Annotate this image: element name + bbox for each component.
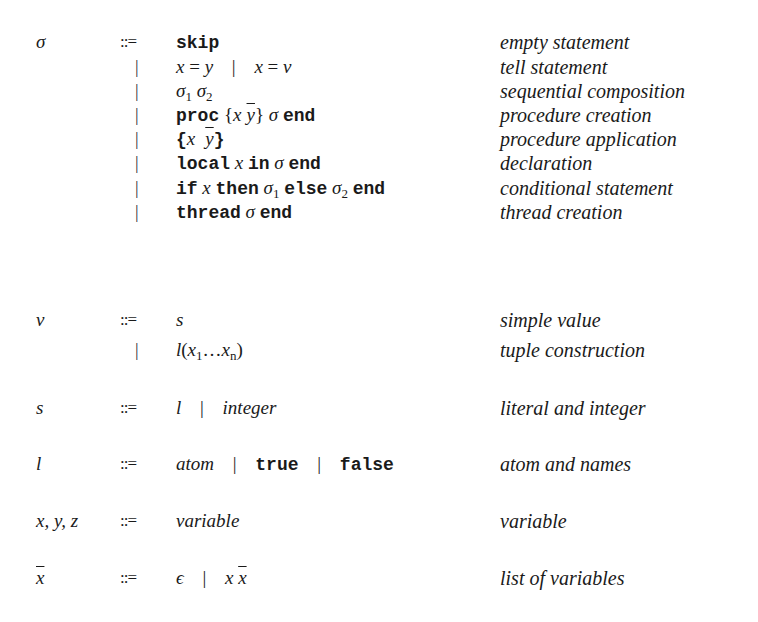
rbrace: } (214, 130, 225, 150)
production-literal-integer: s ::= l | integer literal and integer (0, 396, 758, 420)
var-ybar: y (247, 104, 255, 125)
alternative: atom | true | false (176, 452, 394, 477)
production-atom: l ::= atom | true | false atom and names (0, 452, 758, 476)
production-application: | {xy} procedure application (0, 127, 758, 151)
subscript: 1 (185, 89, 192, 104)
production-skip: σ ::= skip empty statement (0, 30, 758, 54)
grammar-table: σ ::= skip empty statement | x = y | x =… (0, 0, 758, 622)
alternative-bar: | (135, 200, 139, 224)
alternative: l | integer (176, 396, 276, 420)
production-simple-value: v ::= s simple value (0, 308, 758, 332)
nonterminal-l: l (36, 452, 41, 476)
sigma: σ (274, 152, 283, 173)
production-thread: | thread σ end thread creation (0, 200, 758, 224)
var-x: x (188, 339, 196, 360)
keyword-proc: proc (176, 106, 219, 126)
sigma: σ (264, 177, 273, 198)
production-sequential: | σ1 σ2 sequential composition (0, 79, 758, 103)
equals: = (189, 56, 200, 77)
var-x: x (235, 152, 243, 173)
alternative-bar: | (135, 176, 139, 200)
var-x: x (254, 56, 262, 77)
var-ybar: y (205, 128, 213, 149)
alternative-bar: | (135, 127, 139, 151)
rbrace: } (255, 104, 264, 125)
var-y: y (205, 56, 213, 77)
alternative-bar: | (135, 338, 139, 362)
nonterminal-sigma: σ (36, 30, 45, 54)
defines-symbol: ::= (120, 396, 136, 420)
var-x: x (176, 56, 184, 77)
equals: = (268, 56, 279, 77)
sigma: σ (269, 104, 278, 125)
defines-symbol: ::= (120, 30, 136, 54)
var-x: x (233, 104, 241, 125)
alternative-bar: | (135, 151, 139, 175)
inline-bar: | (202, 566, 206, 590)
production-if: | if x then σ1 else σ2 end conditional s… (0, 176, 758, 200)
nonterminal-s: s (36, 396, 43, 420)
alternative: variable (176, 509, 239, 533)
defines-symbol: ::= (120, 452, 136, 476)
nonterminal-xyz: x, y, z (36, 509, 78, 533)
var-x: x (222, 339, 230, 360)
keyword-end: end (283, 106, 315, 126)
description: literal and integer (500, 396, 646, 420)
production-variable: x, y, z ::= variable variable (0, 509, 758, 533)
description: empty statement (500, 30, 629, 54)
var-x: x (187, 128, 195, 149)
keyword-local: local (176, 154, 230, 174)
var-l: l (176, 397, 181, 418)
description: procedure creation (500, 103, 652, 127)
lbrace: { (176, 130, 187, 150)
alternative: l(x1…xn) (176, 338, 243, 368)
description: thread creation (500, 200, 622, 224)
defines-symbol: ::= (120, 509, 136, 533)
sigma: σ (176, 80, 185, 101)
var-x: x (225, 567, 233, 588)
production-proc: | proc {xy} σ end procedure creation (0, 103, 758, 127)
nonterminal-xbar: x (36, 566, 44, 590)
alternative: thread σ end (176, 200, 292, 225)
description: tell statement (500, 55, 607, 79)
keyword-skip: skip (176, 33, 219, 53)
epsilon: ϵ (176, 567, 184, 588)
alternative: x = y | x = v (176, 55, 292, 79)
atom: atom (176, 453, 214, 474)
production-tuple: | l(x1…xn) tuple construction (0, 338, 758, 362)
alternative-bar: | (135, 79, 139, 103)
inline-bar: | (200, 396, 204, 420)
rparen: ) (236, 339, 242, 360)
keyword-if: if (176, 179, 198, 199)
keyword-end: end (353, 179, 385, 199)
description: list of variables (500, 566, 624, 590)
keyword-end: end (260, 203, 292, 223)
production-local: | local x in σ end declaration (0, 151, 758, 175)
alternative: {xy} (176, 127, 225, 152)
keyword-thread: thread (176, 203, 241, 223)
alternative: proc {xy} σ end (176, 103, 315, 128)
subscript: 2 (206, 89, 213, 104)
production-variable-list: x ::= ϵ | x x list of variables (0, 566, 758, 590)
nonterminal-v: v (36, 308, 44, 332)
keyword-false: false (340, 455, 394, 475)
description: variable (500, 509, 567, 533)
var-v: v (283, 56, 291, 77)
inline-bar: | (232, 55, 236, 79)
description: conditional statement (500, 176, 673, 200)
defines-symbol: ::= (120, 308, 136, 332)
alternative-bar: | (135, 103, 139, 127)
integer: integer (223, 397, 277, 418)
sigma: σ (246, 201, 255, 222)
defines-symbol: ::= (120, 566, 136, 590)
alternative: skip (176, 30, 219, 55)
keyword-else: else (284, 179, 327, 199)
keyword-true: true (255, 455, 298, 475)
keyword-then: then (216, 179, 259, 199)
lbrace: { (224, 104, 233, 125)
alternative-bar: | (135, 55, 139, 79)
description: sequential composition (500, 79, 685, 103)
keyword-in: in (248, 154, 270, 174)
inline-bar: | (317, 452, 321, 476)
alternative: local x in σ end (176, 151, 321, 176)
